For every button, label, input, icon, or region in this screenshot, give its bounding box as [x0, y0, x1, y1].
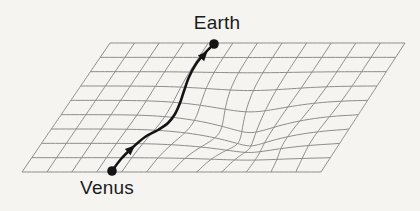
spacetime-diagram: Earth Venus — [0, 0, 420, 211]
earth-dot — [209, 39, 219, 49]
grid-mesh — [22, 43, 405, 172]
light-path — [112, 45, 213, 171]
earth-label: Earth — [194, 12, 240, 34]
venus-label: Venus — [80, 177, 134, 199]
venus-dot — [107, 166, 117, 176]
